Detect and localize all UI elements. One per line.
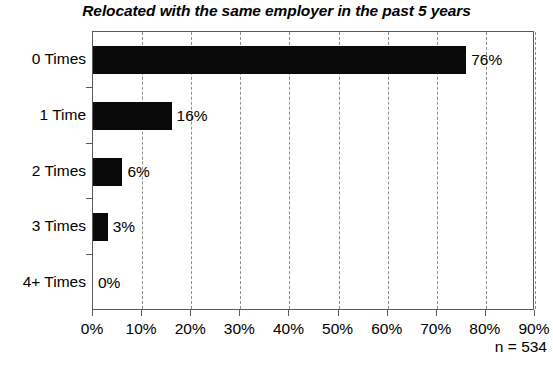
gridline bbox=[535, 32, 536, 309]
category-label: 1 Time bbox=[0, 101, 86, 129]
category-label: 3 Times bbox=[0, 212, 86, 240]
x-axis-tick bbox=[239, 310, 240, 316]
bar bbox=[93, 158, 122, 186]
bar-row: 0% bbox=[93, 255, 533, 311]
x-axis-tick bbox=[485, 310, 486, 316]
bar bbox=[93, 213, 108, 241]
category-label: 2 Times bbox=[0, 157, 86, 185]
category-label: 0 Times bbox=[0, 45, 86, 73]
y-axis-tick bbox=[86, 198, 93, 199]
bar-chart: Relocated with the same employer in the … bbox=[0, 0, 553, 369]
bar-row: 6% bbox=[93, 144, 533, 200]
x-axis-tick bbox=[338, 310, 339, 316]
bar-row: 16% bbox=[93, 88, 533, 144]
bar-value-label: 3% bbox=[108, 213, 135, 241]
bar bbox=[93, 46, 466, 74]
x-axis-tick bbox=[288, 310, 289, 316]
x-axis-tick bbox=[92, 310, 93, 316]
category-label: 4+ Times bbox=[0, 268, 86, 296]
x-axis-tick bbox=[141, 310, 142, 316]
plot-area: 76%16%6%3%0% bbox=[92, 31, 534, 310]
bar-value-label: 16% bbox=[172, 102, 208, 130]
y-axis-tick bbox=[86, 254, 93, 255]
y-axis-tick bbox=[86, 143, 93, 144]
chart-title: Relocated with the same employer in the … bbox=[0, 2, 553, 20]
bar-row: 76% bbox=[93, 32, 533, 88]
y-axis-tick bbox=[86, 87, 93, 88]
sample-size-annotation: n = 534 bbox=[495, 338, 547, 356]
bar-value-label: 76% bbox=[466, 46, 502, 74]
x-axis-tick bbox=[387, 310, 388, 316]
bar bbox=[93, 102, 172, 130]
x-axis-tick bbox=[436, 310, 437, 316]
bar-value-label: 6% bbox=[122, 158, 149, 186]
bar-row: 3% bbox=[93, 199, 533, 255]
x-axis-tick bbox=[190, 310, 191, 316]
x-axis-label: 90% bbox=[504, 320, 553, 338]
x-axis-tick bbox=[534, 310, 535, 316]
bar-value-label: 0% bbox=[93, 269, 120, 297]
